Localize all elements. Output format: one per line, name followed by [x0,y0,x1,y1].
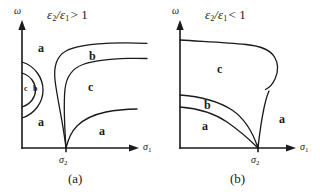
sigma1-axis-label-a: σ1 [143,142,151,154]
sigma2-tick-label-b-sub: 2 [256,159,260,167]
sigma2-tick-label-b: σ2 [251,155,259,167]
omega-axis-arrowhead-a [18,20,25,30]
region-label-b-upper-c: c [217,63,222,75]
figure-root: ω ε2/ε1> 1 a a a b c c b σ1 σ2 (a) [0,0,320,192]
omega-axis-label-a: ω [14,6,21,16]
sigma2-tick-label-a: σ2 [59,155,67,167]
region-label-a-lower-right: a [99,125,105,137]
panel-b: ω ε2/ε1< 1 c b a a σ1 σ2 (b) [160,0,320,192]
curve-b-middle [180,95,258,148]
panel-a-title: ε2/ε1> 1 [47,8,88,23]
sigma1-axis-label-a-sub: 1 [148,146,152,154]
omega-axis-arrowhead-b [176,20,183,30]
region-label-a-upper-left: a [38,42,44,54]
curve-b-right-branch [258,91,269,148]
region-label-a-inset-inner-c: c [24,85,28,93]
region-label-a-center-c: c [88,81,93,93]
region-label-a-band-b: b [89,50,96,62]
region-label-b-lower-left-a: a [202,120,208,132]
sigma1-axis-label-b: σ1 [300,142,308,154]
panel-b-title-relation: < 1 [227,7,245,22]
panel-a-title-relation: > 1 [69,7,87,22]
omega-axis-label-b: ω [172,6,179,16]
panel-a: ω ε2/ε1> 1 a a a b c c b σ1 σ2 (a) [0,0,160,192]
sigma1-axis-arrowhead-b [286,144,296,151]
panel-a-caption: (a) [68,172,82,185]
curve-b-inner [180,107,258,148]
panel-b-caption: (b) [230,172,245,185]
region-label-a-inset-outer-b: b [33,85,37,93]
region-label-b-lower-right-a: a [279,113,285,125]
sigma1-axis-arrowhead-a [129,144,139,151]
panel-b-title: ε2/ε1< 1 [205,8,246,23]
panel-a-plot [0,0,160,192]
curve-b-upper [180,40,277,90]
region-label-a-lower-left: a [38,116,44,128]
panel-b-plot [160,0,320,192]
sigma2-tick-label-a-sub: 2 [64,159,68,167]
curve-a-middle [64,58,147,148]
region-label-b-band-b: b [204,99,211,111]
sigma1-axis-b [180,144,296,151]
sigma1-axis-a [22,144,139,151]
omega-axis-b [176,20,183,148]
sigma1-axis-label-b-sub: 1 [305,146,309,154]
